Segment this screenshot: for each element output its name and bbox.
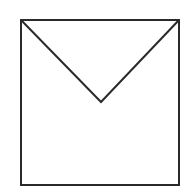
envelope-diagram bbox=[0, 0, 191, 196]
envelope-flap bbox=[21, 20, 179, 102]
